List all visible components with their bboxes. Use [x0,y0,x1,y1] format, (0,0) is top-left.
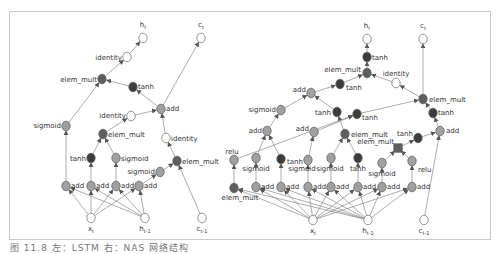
node-circle [304,182,312,192]
edge-arrow [318,116,353,131]
node-circle [327,153,335,163]
node-circle [353,109,361,119]
edge-arrow [315,96,334,110]
lstm-cell-graph: htctidentityelem_multtanhaddsigmoidident… [33,21,219,234]
edge-arrow [269,114,278,128]
node-label: relu [418,166,431,174]
figure-caption: 图 11.8 左：LSTM 右：NAS 网络结构 [10,241,189,254]
node-label: tanh [346,84,362,92]
node-id2: identity [99,111,135,121]
node-htm1: ht-1 [139,213,150,234]
node-circle [419,34,427,44]
node-circle [135,181,143,191]
node-circle [354,153,362,163]
node-label: sigmoid [368,170,396,178]
edge-arrow [135,110,156,115]
node-xt: xt [309,215,317,236]
node-circle [429,108,437,118]
node-add2: add [249,126,271,136]
edge-arrow [130,42,140,54]
node-circle [87,181,95,191]
node-label: sigmoid [33,122,61,130]
node-sg2: sigmoid [112,153,149,163]
edge-arrow [238,116,353,159]
node-label: tanh [315,109,331,117]
node-label: elem_mult [108,131,145,139]
node-xt: xt [87,213,95,234]
node-circle [363,68,371,78]
node-circle [378,158,386,168]
node-circle [277,182,285,192]
node-sg5: sigmoid [368,158,396,178]
node-relu1: relu [225,148,238,165]
node-em1: elem_mult [60,74,106,84]
edge-arrow [162,114,166,134]
node-label: tanh [70,155,86,163]
node-circle [378,182,386,192]
edge-arrow [179,165,200,214]
node-th1: tanh [363,52,388,62]
node-label: ct [198,21,204,30]
node-label: add [387,183,400,191]
node-circle [420,215,428,225]
node-add1: add [157,104,179,114]
node-circle [139,33,147,43]
edge-arrow [422,132,436,136]
node-id3: identity [162,133,198,143]
node-a3: add [112,181,134,191]
edge-arrow [284,190,310,217]
node-relu2: relu [408,156,432,174]
node-label: sigmoid [127,168,155,176]
node-label: tanh [362,114,378,122]
node-circle [364,215,372,225]
node-label: elem_mult [182,158,219,166]
node-label: add [71,182,84,190]
node-label: ht-1 [362,227,373,236]
node-circle [62,121,70,131]
node-circle [419,94,427,104]
node-label: add [261,183,274,191]
node-label: sigmoid [121,155,149,163]
node-label: tanh [438,109,454,117]
edge-arrow [385,151,395,160]
node-th8: tanh [350,153,366,173]
node-label: sigmoid [248,106,276,114]
node-th5: tanh [429,108,454,118]
node-circle [62,181,70,191]
node-label: add [96,182,109,190]
node-ct: ct [197,21,205,43]
node-circle [112,181,120,191]
node-add3: add [296,125,318,137]
edge-arrow [371,190,408,218]
node-circle [98,74,106,84]
node-ctm1: ct-1 [197,213,208,234]
edge-arrow [269,135,279,155]
node-circle [162,133,170,143]
edge-arrow [107,80,129,86]
edge-arrow [333,138,343,154]
node-circle [127,111,135,121]
node-label: identity [171,135,198,143]
node-label: identity [95,54,122,62]
node-label: tanh [397,130,413,138]
edge-arrow [258,135,266,154]
edge-arrow [315,85,336,91]
node-circle [252,182,260,192]
node-circle [307,88,315,98]
node-em2: elem_mult [99,129,145,139]
node-em4: elem_mult [357,138,402,152]
node-circle [252,153,260,163]
edge-arrow [137,90,158,107]
node-label: ct [420,22,426,31]
node-b4: add [327,182,349,192]
node-circle [173,156,181,166]
node-label: xt [88,225,94,234]
node-circle [392,78,400,88]
node-circle [363,34,371,44]
node-b7: add [408,182,430,192]
node-circle [87,213,95,223]
edge-arrow [400,85,419,97]
node-b6: add [378,182,400,192]
node-th6: tanh [397,130,422,143]
node-th2: tanh [70,153,95,163]
